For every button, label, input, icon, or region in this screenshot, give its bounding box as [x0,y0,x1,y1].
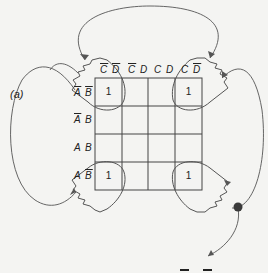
column-header-c-d: C D [154,64,174,75]
cell-r3-c3: 1 [175,170,202,181]
row-header-a-b: A B [74,142,93,153]
c-bar: C [128,64,136,75]
panel-label: (a) [10,88,23,100]
c-bar: C [100,64,108,75]
row-header-abar-b: A B [74,114,93,125]
d-bar: D [193,64,201,75]
wrap-arrows [11,6,264,256]
column-header-c-dbar: C D [181,64,201,75]
row-header-a-bbar: A B [74,170,93,181]
d-bar: D [112,64,120,75]
column-header-cbar-dbar: C D [100,64,120,75]
column-header-cbar-d: C D [128,64,148,75]
cropped-overline [180,269,189,271]
connection-dot [234,203,243,212]
row-header-abar-bbar: A B [74,87,93,98]
cell-r0-c3: 1 [175,86,202,97]
cell-r3-c0: 1 [95,170,122,181]
arrowheads [70,51,231,256]
kmap-diagram [0,0,268,273]
cropped-overline [203,269,212,271]
cell-r0-c0: 1 [95,86,122,97]
